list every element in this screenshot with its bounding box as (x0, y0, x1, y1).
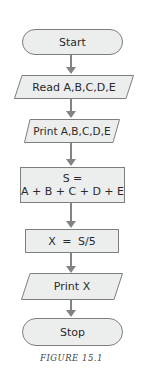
stop-terminator: Stop (22, 318, 123, 346)
print-inputs-parallelogram: Print A,B,C,D,E (24, 119, 120, 143)
sum-label-line2: A + B + C + D + E (21, 185, 124, 198)
read-input-parallelogram: Read A,B,C,D,E (14, 75, 134, 99)
stop-label: Stop (60, 326, 85, 339)
start-label: Start (59, 36, 86, 49)
read-label: Read A,B,C,D,E (32, 81, 115, 94)
average-process-box: X = S/5 (25, 229, 119, 253)
arrowhead-icon (66, 310, 76, 317)
arrow-sum-to-avg (70, 203, 72, 223)
arrowhead-icon (66, 111, 76, 118)
sum-label-line1: S = (63, 172, 83, 185)
figure-caption: FIGURE 15.1 (0, 353, 143, 363)
arrowhead-icon (66, 266, 76, 273)
arrowhead-icon (66, 159, 76, 166)
arrowhead-icon (66, 221, 76, 228)
start-terminator: Start (22, 29, 123, 55)
sum-process-box: S = A + B + C + D + E (20, 167, 125, 203)
print-x-label: Print X (54, 280, 90, 293)
arrowhead-icon (66, 67, 76, 74)
print-x-parallelogram: Print X (21, 273, 123, 300)
average-label: X = S/5 (48, 235, 95, 248)
print-inputs-label: Print A,B,C,D,E (33, 125, 110, 137)
